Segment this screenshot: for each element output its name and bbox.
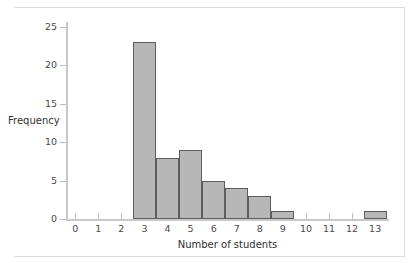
plot-area: 0510152025012345678910111213: [0, 0, 412, 263]
histogram-bar: [364, 211, 387, 219]
x-tick-label: 0: [65, 224, 85, 234]
x-tick-label: 5: [181, 224, 201, 234]
x-axis-line: [66, 219, 389, 221]
y-tick-label: 10: [35, 137, 57, 147]
y-tick-label: 0: [35, 214, 57, 224]
y-tick-mark: [60, 27, 66, 28]
y-axis-title: Frequency: [8, 116, 60, 126]
x-tick-label: 13: [365, 224, 385, 234]
histogram-bar: [202, 181, 225, 219]
histogram-bar: [156, 158, 179, 219]
x-tick-mark: [75, 213, 76, 219]
y-tick-label: 15: [35, 99, 57, 109]
y-tick-label: 20: [35, 60, 57, 70]
x-tick-label: 11: [319, 224, 339, 234]
histogram-bar: [248, 196, 271, 219]
histogram-figure: 0510152025012345678910111213 Frequency N…: [0, 0, 412, 263]
x-tick-mark: [306, 213, 307, 219]
x-tick-label: 1: [88, 224, 108, 234]
y-tick-mark: [60, 65, 66, 66]
x-tick-label: 3: [134, 224, 154, 234]
x-tick-label: 4: [158, 224, 178, 234]
y-tick-mark: [60, 219, 66, 220]
x-tick-mark: [352, 213, 353, 219]
histogram-bar: [179, 150, 202, 219]
y-tick-mark: [60, 142, 66, 143]
x-tick-label: 8: [250, 224, 270, 234]
histogram-bar: [271, 211, 294, 219]
x-tick-label: 10: [296, 224, 316, 234]
y-tick-label: 25: [35, 22, 57, 32]
x-tick-mark: [121, 213, 122, 219]
x-tick-label: 6: [204, 224, 224, 234]
x-tick-label: 9: [273, 224, 293, 234]
histogram-bar: [225, 188, 248, 219]
x-tick-label: 12: [342, 224, 362, 234]
x-tick-label: 2: [111, 224, 131, 234]
x-tick-mark: [98, 213, 99, 219]
y-tick-mark: [60, 104, 66, 105]
x-axis-title: Number of students: [66, 240, 389, 250]
histogram-bar: [133, 42, 156, 219]
x-tick-label: 7: [227, 224, 247, 234]
x-tick-mark: [329, 213, 330, 219]
y-axis-line: [66, 22, 68, 220]
y-tick-label: 5: [35, 176, 57, 186]
y-tick-mark: [60, 181, 66, 182]
